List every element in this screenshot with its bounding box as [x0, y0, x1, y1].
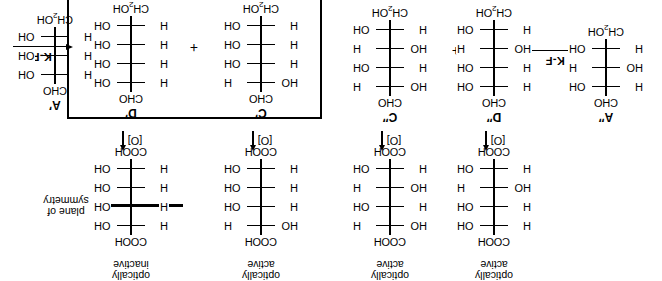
- substituent-left: H: [83, 31, 93, 42]
- bond-line: [480, 187, 508, 188]
- structure-A-prime: A′ CHO H OH H OH H OH: [3, 9, 107, 97]
- plane-of-symmetry-line1: plane of: [31, 206, 101, 217]
- oxidized-structure-D-double-prime: optically active COOH H OH H OH HO: [442, 146, 546, 248]
- optical-activity-line1: optically: [79, 270, 183, 281]
- substituent-right: OH: [223, 201, 242, 212]
- substituent-left: H: [522, 201, 532, 212]
- bond-line: [247, 206, 275, 207]
- bond-line: [376, 187, 404, 188]
- substituent-right: OH: [17, 50, 36, 61]
- bond-line: [376, 168, 404, 169]
- stereocenter-row: H OH: [338, 197, 442, 216]
- stereocenter-row: H OH: [442, 159, 546, 178]
- bond-line: [117, 168, 145, 169]
- substituent-right: OH: [93, 20, 112, 31]
- stereocenter-row: H OH: [338, 20, 442, 39]
- stereocenter-row: H OH: [442, 77, 546, 96]
- bond-line: [247, 63, 275, 64]
- structure-C-prime: C′ CHO HO H H OH H OH: [209, 0, 313, 105]
- substituent-right: OH: [223, 182, 242, 193]
- substituent-left: H: [418, 24, 428, 35]
- stereocenter-rows: HO H H OH H OH H OH: [209, 16, 313, 92]
- substituent-left: H: [289, 163, 299, 174]
- figure-canvas: A″ CHO H OH HO H H OH: [0, 0, 662, 281]
- stereocenter-row: H OH: [338, 159, 442, 178]
- bond-line: [376, 206, 404, 207]
- substituent-right: OH: [456, 62, 475, 73]
- substituent-left: H: [159, 182, 169, 193]
- plane-of-symmetry-line2: symmetry: [31, 195, 101, 206]
- optical-activity-note: optically active: [442, 259, 546, 281]
- substituent-right: OH: [17, 69, 36, 80]
- substituent-right: H: [223, 220, 233, 231]
- bond-line: [117, 63, 145, 64]
- stereocenter-row: H OH: [79, 216, 183, 235]
- stereocenter-row: HO H: [209, 73, 313, 92]
- stereocenter-row: H OH: [3, 65, 107, 84]
- structure-A-double-prime: A″ CHO H OH HO H H OH: [554, 21, 658, 109]
- substituent-left: H: [522, 62, 532, 73]
- substituent-left: HO: [410, 43, 429, 54]
- stereocenter-row: H OH: [554, 77, 658, 96]
- substituent-left: H: [159, 39, 169, 50]
- substituent-right: OH: [17, 31, 36, 42]
- bond-line: [592, 67, 620, 68]
- stereocenter-rows: H OH H OH H OH: [3, 27, 107, 84]
- chain-top-group: CHO: [3, 85, 107, 97]
- plane-of-symmetry-label: plane of symmetry: [31, 195, 101, 217]
- chain-bottom-group: CH2OH: [442, 2, 546, 19]
- stereocenter-rows: HO H H OH HO H H OH: [338, 20, 442, 96]
- substituent-right: H: [352, 182, 362, 193]
- structure-label: D″: [442, 110, 546, 124]
- stereocenter-rows: HO H H OH HO H H OH: [338, 159, 442, 235]
- chain-top-group: COOH: [338, 236, 442, 248]
- substituent-right: H: [352, 220, 362, 231]
- structure-label: C″: [338, 110, 442, 124]
- substituent-left: HO: [410, 81, 429, 92]
- bond-line: [592, 86, 620, 87]
- substituent-right: OH: [223, 39, 242, 50]
- substituent-right: OH: [93, 163, 112, 174]
- substituent-left: H: [634, 43, 644, 54]
- chain-bottom-group: COOH: [79, 146, 183, 158]
- substituent-left: H: [289, 58, 299, 69]
- substituent-left: H: [522, 81, 532, 92]
- bond-line: [117, 82, 145, 83]
- substituent-right: H: [352, 43, 362, 54]
- chain-top-group: CHO: [554, 97, 658, 109]
- bond-line: [117, 225, 145, 226]
- substituent-left: HO: [410, 220, 429, 231]
- optical-activity-line2: active: [209, 259, 313, 270]
- bond-line: [376, 67, 404, 68]
- substituent-left: H: [522, 24, 532, 35]
- bond-line: [41, 74, 69, 75]
- chain-top-group: COOH: [209, 236, 313, 248]
- stereocenter-row: HO H: [338, 216, 442, 235]
- substituent-left: H: [418, 201, 428, 212]
- chain-bottom-group: CH2OH: [3, 9, 107, 26]
- substituent-left: H: [159, 163, 169, 174]
- bond-line: [247, 44, 275, 45]
- chain-top-group: CHO: [338, 97, 442, 109]
- substituent-left: H: [83, 50, 93, 61]
- bond-line: [480, 206, 508, 207]
- structure-C-double-prime: C″ CHO HO H H OH HO H: [338, 2, 442, 109]
- substituent-right: OH: [223, 20, 242, 31]
- substituent-left: H: [289, 182, 299, 193]
- left-reaction-panel: A″ CHO H OH HO H H OH: [331, 0, 662, 281]
- optical-activity-line2: inactive: [79, 259, 183, 270]
- chain-top-group: CHO: [442, 97, 546, 109]
- substituent-left: H: [418, 62, 428, 73]
- stereocenter-rows: HO H H OH H OH H OH: [209, 159, 313, 235]
- substituent-right: H: [352, 81, 362, 92]
- stereocenter-row: HO H: [338, 178, 442, 197]
- substituent-right: OH: [93, 201, 112, 212]
- substituent-right: H: [223, 77, 233, 88]
- substituent-left: HO: [281, 77, 300, 88]
- stereocenter-row: H OH: [442, 58, 546, 77]
- substituent-right: OH: [93, 39, 112, 50]
- stereocenter-row: H OH: [442, 20, 546, 39]
- substituent-left: H: [159, 77, 169, 88]
- chain-bottom-group: CH2OH: [338, 2, 442, 19]
- substituent-right: OH: [352, 62, 371, 73]
